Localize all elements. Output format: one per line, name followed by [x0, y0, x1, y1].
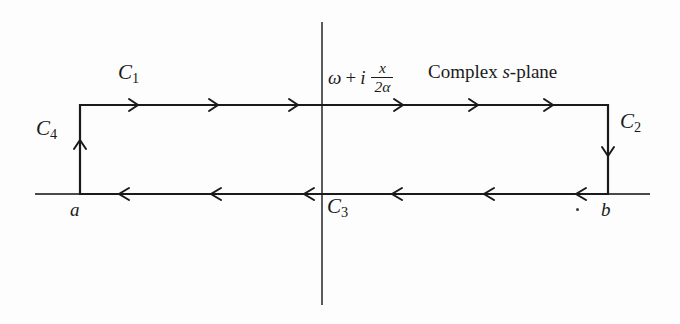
contour-label-c2-letter: C — [620, 109, 634, 133]
endpoint-label-a: a — [70, 200, 80, 219]
fraction-denominator: 2α — [371, 77, 393, 95]
imaginary-axis-offset-label: ω + i x 2α — [328, 60, 393, 96]
plane-caption-variable: s — [502, 61, 509, 82]
scan-speck-artifact — [576, 208, 579, 211]
fraction-x-over-2alpha: x 2α — [371, 60, 393, 96]
plane-caption-suffix: -plane — [510, 61, 557, 82]
contour-label-c4: C4 — [36, 118, 57, 141]
contour-segment-c1 — [79, 99, 609, 111]
complex-plane-figure: C1 C2 C3 C4 a b ω + i x 2α Complex s-pla… — [0, 0, 680, 324]
omega-symbol: ω — [328, 68, 341, 87]
plane-caption: Complex s-plane — [428, 62, 557, 81]
contour-label-c1-subscript: 1 — [132, 70, 139, 86]
contour-label-c4-letter: C — [36, 116, 50, 140]
contour-label-c3-letter: C — [327, 194, 341, 218]
contour-segment-c2 — [602, 104, 614, 195]
plus-sign: + — [345, 68, 356, 87]
contour-label-c2-subscript: 2 — [634, 119, 641, 135]
contour-label-c3: C3 — [327, 196, 348, 219]
contour-segment-c4 — [74, 104, 86, 195]
contour-label-c4-subscript: 4 — [50, 126, 57, 142]
contour-label-c1-letter: C — [118, 60, 132, 84]
imaginary-unit-symbol: i — [360, 68, 365, 87]
contour-label-c3-subscript: 3 — [341, 204, 348, 220]
contour-diagram-svg — [0, 0, 680, 324]
fraction-numerator: x — [376, 60, 389, 77]
contour-label-c2: C2 — [620, 111, 641, 134]
endpoint-label-b: b — [601, 200, 611, 219]
contour-label-c1: C1 — [118, 62, 139, 85]
plane-caption-prefix: Complex — [428, 61, 502, 82]
